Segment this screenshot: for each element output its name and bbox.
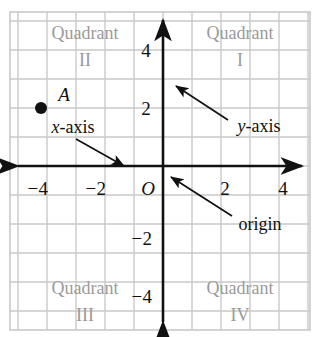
coordinate-plane-svg (0, 0, 320, 337)
origin-annotation-arrow (171, 177, 232, 216)
grid-lines (10, 12, 310, 330)
point-a-dot (35, 102, 47, 114)
x-axis-annotation-arrow (76, 139, 124, 166)
y-axis-annotation-arrow (176, 86, 228, 120)
coordinate-plane-figure: Quadrant I Quadrant II Quadrant III Quad… (0, 0, 320, 337)
annotation-arrows (76, 86, 232, 216)
